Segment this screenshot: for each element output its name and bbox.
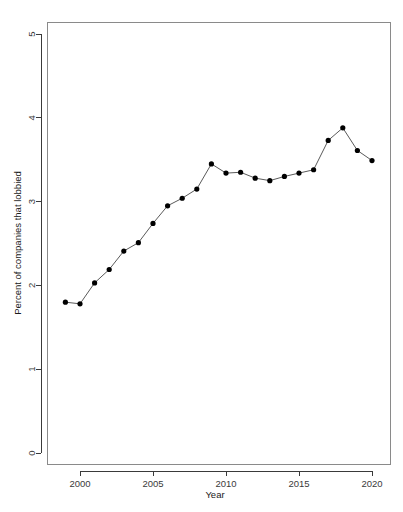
data-point xyxy=(326,138,331,143)
x-tick-label: 2000 xyxy=(69,478,90,489)
x-tick-label: 2020 xyxy=(361,478,382,489)
data-point xyxy=(150,221,155,226)
data-point xyxy=(296,171,301,176)
data-series xyxy=(63,125,375,306)
data-point xyxy=(223,171,228,176)
series-line xyxy=(65,128,372,304)
data-point xyxy=(63,300,68,305)
data-point xyxy=(107,267,112,272)
x-axis: 20002005201020152020 xyxy=(69,471,382,489)
data-point xyxy=(121,248,126,253)
chart-figure: 20002005201020152020 012345 Year Percent… xyxy=(0,0,403,512)
data-point xyxy=(340,125,345,130)
data-point xyxy=(282,174,287,179)
x-tick-label: 2015 xyxy=(288,478,309,489)
data-point xyxy=(180,196,185,201)
data-point xyxy=(267,178,272,183)
y-tick-label: 2 xyxy=(26,283,37,288)
y-tick-label: 3 xyxy=(26,199,37,204)
data-point xyxy=(253,176,258,181)
data-point xyxy=(165,203,170,208)
y-tick-label: 4 xyxy=(26,115,37,120)
y-tick-label: 1 xyxy=(26,367,37,372)
line-chart-canvas: 20002005201020152020 012345 Year Percent… xyxy=(0,0,403,512)
x-axis-title: Year xyxy=(205,489,224,500)
data-point xyxy=(369,158,374,163)
y-axis-title: Percent of companies that lobbied xyxy=(12,171,23,315)
y-axis: 012345 xyxy=(26,31,41,455)
plot-frame xyxy=(48,23,391,465)
plot-border xyxy=(48,23,391,465)
data-point xyxy=(77,301,82,306)
data-point xyxy=(355,148,360,153)
data-point xyxy=(92,280,97,285)
data-point xyxy=(194,186,199,191)
data-point xyxy=(209,161,214,166)
data-point xyxy=(238,170,243,175)
data-point xyxy=(136,240,141,245)
data-point xyxy=(311,167,316,172)
x-tick-label: 2010 xyxy=(215,478,236,489)
x-tick-label: 2005 xyxy=(142,478,163,489)
y-tick-label: 5 xyxy=(26,31,37,36)
y-tick-label: 0 xyxy=(26,450,37,455)
